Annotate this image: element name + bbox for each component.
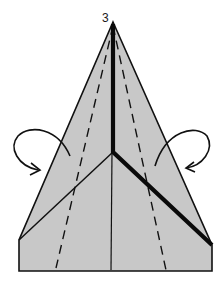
paper-shape: [19, 22, 212, 271]
step-number: 3: [102, 11, 109, 25]
origami-diagram: 3: [0, 0, 222, 288]
